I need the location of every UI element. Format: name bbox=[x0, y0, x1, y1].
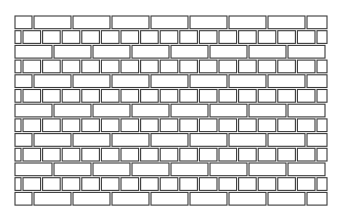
brick bbox=[278, 178, 296, 191]
brick bbox=[317, 90, 327, 103]
brick bbox=[180, 90, 198, 103]
brick bbox=[132, 104, 169, 117]
brick bbox=[34, 134, 71, 147]
brick bbox=[23, 148, 41, 161]
brick bbox=[82, 178, 100, 191]
brick bbox=[62, 119, 80, 132]
brick bbox=[180, 178, 198, 191]
brick bbox=[141, 148, 159, 161]
brick bbox=[288, 163, 325, 176]
brick bbox=[101, 31, 119, 44]
brick bbox=[307, 75, 327, 88]
brick bbox=[278, 31, 296, 44]
brick bbox=[101, 60, 119, 73]
brick bbox=[112, 16, 149, 29]
brick bbox=[171, 45, 208, 58]
brick bbox=[249, 163, 286, 176]
brick bbox=[15, 163, 52, 176]
brick bbox=[141, 31, 159, 44]
brick bbox=[288, 104, 325, 117]
brick bbox=[297, 148, 315, 161]
brick bbox=[278, 90, 296, 103]
brick bbox=[43, 60, 61, 73]
brick bbox=[121, 119, 139, 132]
brick bbox=[278, 119, 296, 132]
brick bbox=[297, 60, 315, 73]
brick bbox=[93, 45, 130, 58]
brick bbox=[199, 90, 217, 103]
brick bbox=[317, 178, 327, 191]
brick bbox=[297, 119, 315, 132]
brick bbox=[249, 104, 286, 117]
brick bbox=[23, 60, 41, 73]
brick bbox=[15, 134, 32, 147]
brick bbox=[268, 75, 305, 88]
brick bbox=[43, 148, 61, 161]
brick bbox=[101, 148, 119, 161]
brick bbox=[199, 148, 217, 161]
brick bbox=[54, 45, 91, 58]
brick bbox=[23, 119, 41, 132]
brick bbox=[23, 31, 41, 44]
brick bbox=[93, 104, 130, 117]
brick bbox=[160, 148, 178, 161]
brick bbox=[199, 31, 217, 44]
brick bbox=[151, 75, 188, 88]
brick bbox=[62, 148, 80, 161]
brick bbox=[112, 75, 149, 88]
brick bbox=[121, 31, 139, 44]
brick bbox=[62, 60, 80, 73]
brick bbox=[121, 90, 139, 103]
brick bbox=[288, 45, 325, 58]
brick bbox=[141, 60, 159, 73]
brick bbox=[171, 163, 208, 176]
brick bbox=[317, 31, 327, 44]
brick bbox=[34, 192, 71, 205]
brick bbox=[190, 134, 227, 147]
brick bbox=[219, 148, 237, 161]
brick bbox=[239, 31, 257, 44]
brick bbox=[199, 60, 217, 73]
brick-wall bbox=[0, 0, 339, 221]
brick bbox=[43, 178, 61, 191]
brick bbox=[15, 31, 21, 44]
brick bbox=[54, 163, 91, 176]
brick bbox=[229, 16, 266, 29]
brick bbox=[219, 119, 237, 132]
brick bbox=[160, 90, 178, 103]
brick bbox=[62, 90, 80, 103]
brick bbox=[258, 148, 276, 161]
brick bbox=[297, 90, 315, 103]
brick bbox=[210, 45, 247, 58]
brick bbox=[180, 119, 198, 132]
brick bbox=[15, 178, 21, 191]
brick bbox=[160, 178, 178, 191]
brick bbox=[268, 134, 305, 147]
brick bbox=[43, 90, 61, 103]
brick bbox=[210, 163, 247, 176]
brick bbox=[15, 148, 21, 161]
brick bbox=[278, 148, 296, 161]
brick bbox=[82, 31, 100, 44]
brick bbox=[121, 178, 139, 191]
brick bbox=[249, 45, 286, 58]
brick bbox=[229, 192, 266, 205]
brick bbox=[121, 148, 139, 161]
brick bbox=[62, 178, 80, 191]
brick bbox=[15, 75, 32, 88]
brick bbox=[317, 119, 327, 132]
brick bbox=[43, 119, 61, 132]
brick bbox=[73, 16, 110, 29]
brick bbox=[151, 134, 188, 147]
brick bbox=[268, 192, 305, 205]
brick bbox=[160, 119, 178, 132]
brick bbox=[239, 178, 257, 191]
brick bbox=[268, 16, 305, 29]
brick bbox=[199, 178, 217, 191]
brick bbox=[15, 16, 32, 29]
brick bbox=[180, 148, 198, 161]
brick bbox=[132, 163, 169, 176]
brick bbox=[190, 192, 227, 205]
brick bbox=[229, 134, 266, 147]
brick bbox=[317, 148, 327, 161]
